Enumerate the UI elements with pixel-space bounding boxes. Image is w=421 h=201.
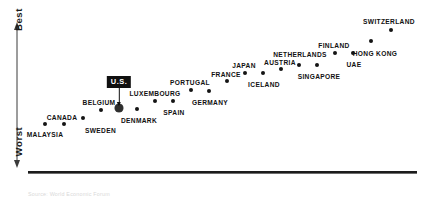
point-label: MALAYSIA	[27, 132, 64, 139]
point-label: ICELAND	[248, 82, 280, 89]
point-label: SWITZERLAND	[363, 19, 415, 26]
point-label: NETHERLANDS	[273, 52, 327, 59]
data-point-malaysia[interactable]	[43, 122, 48, 127]
data-point-france[interactable]	[225, 79, 230, 84]
point-label: CANADA	[47, 115, 78, 122]
data-point-germany[interactable]	[207, 89, 212, 94]
point-label: FINLAND	[318, 43, 349, 50]
data-point-switzerland[interactable]	[389, 28, 394, 33]
data-point-spain[interactable]	[171, 99, 176, 104]
chart-source-note: Source: World Economic Forum	[28, 191, 110, 197]
point-label: FRANCE	[211, 72, 241, 79]
point-label: UAE	[347, 62, 362, 69]
plot-area: MALAYSIACANADASWEDENBELGIUMDENMARKLUXEMB…	[0, 0, 421, 180]
data-point-canada[interactable]	[62, 122, 67, 127]
point-label: HONG KONG	[353, 51, 398, 58]
point-label: LUXEMBOURG	[129, 91, 180, 98]
point-label: DENMARK	[121, 118, 157, 125]
us-callout-pointer	[118, 88, 119, 105]
scatter-chart: Best Worst MALAYSIACANADASWEDENBELGIUMDE…	[0, 0, 421, 201]
point-label: AUSTRIA	[264, 60, 296, 67]
data-point-belgium[interactable]	[99, 108, 104, 113]
point-label: GERMANY	[192, 100, 228, 107]
point-label: SWEDEN	[85, 128, 116, 135]
data-point-finland[interactable]	[333, 51, 338, 56]
x-axis-baseline	[28, 171, 417, 174]
data-point-hong-kong[interactable]	[369, 39, 374, 44]
point-label: PORTUGAL	[170, 80, 210, 87]
point-label: JAPAN	[232, 63, 256, 70]
point-label: SINGAPORE	[298, 74, 341, 81]
data-point-luxembourg[interactable]	[153, 99, 158, 104]
point-label: BELGIUM	[83, 100, 116, 107]
data-point-iceland[interactable]	[261, 71, 266, 76]
data-point-netherlands[interactable]	[297, 63, 302, 68]
data-point-japan[interactable]	[243, 71, 248, 76]
us-callout-label: U.S.	[107, 76, 131, 88]
point-label: SPAIN	[163, 110, 184, 117]
data-point-portugal[interactable]	[189, 88, 194, 93]
us-callout[interactable]: U.S.	[107, 76, 131, 88]
data-point-austria[interactable]	[279, 67, 284, 72]
data-point-denmark[interactable]	[135, 107, 140, 112]
data-point-singapore[interactable]	[315, 63, 320, 68]
data-point-sweden[interactable]	[81, 116, 86, 121]
